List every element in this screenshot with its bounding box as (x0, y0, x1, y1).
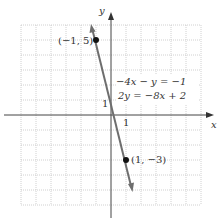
x-axis-label: x (211, 120, 217, 130)
y-tick-label: 1 (102, 99, 108, 109)
point-1-neg3 (123, 157, 129, 163)
coordinate-plane (0, 0, 224, 219)
point-label-2: (1, −3) (131, 155, 166, 165)
x-tick-label: 1 (123, 118, 129, 128)
point-neg1-5 (93, 37, 99, 43)
x-axis (4, 112, 214, 118)
arrow-down-icon (128, 183, 134, 193)
point-label-1: (−1, 5) (58, 36, 93, 46)
arrow-up-icon (90, 24, 96, 33)
equation-2: 2y = −8x + 2 (118, 91, 186, 101)
equation-1: −4x − y = −1 (116, 77, 186, 87)
y-axis-label: y (99, 6, 105, 16)
